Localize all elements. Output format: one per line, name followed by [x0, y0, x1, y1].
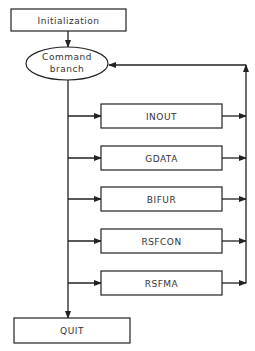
- module-label: GDATA: [145, 154, 178, 164]
- module-label: BIFUR: [147, 195, 176, 205]
- module-label: RSFMA: [145, 279, 179, 289]
- module-node-rsfma: RSFMA: [68, 271, 246, 295]
- module-node-inout: INOUT: [68, 104, 246, 128]
- initialization-label: Initialization: [38, 16, 100, 26]
- initialization-node: Initialization: [11, 9, 126, 31]
- module-node-bifur: BIFUR: [68, 187, 246, 211]
- command-branch-label-line2: branch: [50, 64, 84, 74]
- flowchart: Initialization Command branch INOUTGDATA…: [0, 0, 255, 351]
- module-node-gdata: GDATA: [68, 146, 246, 170]
- command-branch-node: Command branch: [26, 47, 108, 80]
- command-branch-label-line1: Command: [42, 52, 92, 62]
- quit-label: QUIT: [60, 326, 84, 336]
- module-label: INOUT: [146, 112, 177, 122]
- module-node-rsfcon: RSFCON: [68, 229, 246, 253]
- quit-node: QUIT: [14, 318, 130, 343]
- module-label: RSFCON: [141, 237, 181, 247]
